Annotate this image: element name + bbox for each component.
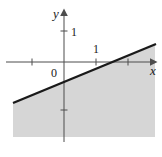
x-tick-label-one: 1 [93,42,99,56]
origin-label: 0 [51,66,57,80]
y-tick-label-one: 1 [71,25,77,39]
y-axis-label: y [51,6,59,21]
x-axis-label: x [149,63,156,78]
figure-container: y x 0 1 1 [0,0,162,157]
graph-canvas: y x 0 1 1 [0,0,162,157]
